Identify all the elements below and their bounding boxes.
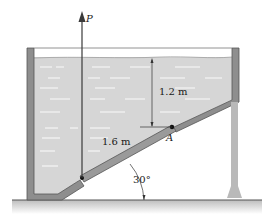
depth-label: 1.2 m bbox=[159, 86, 188, 97]
support-post bbox=[227, 102, 242, 198]
gate-length-label: 1.6 m bbox=[102, 136, 131, 147]
hinge-label: A bbox=[165, 132, 173, 143]
ground bbox=[12, 200, 262, 214]
tank-gate-diagram: P 1.2 m 1.6 m A 30° bbox=[0, 0, 277, 218]
angle-arrowhead bbox=[143, 195, 146, 200]
angle-label: 30° bbox=[133, 174, 151, 185]
force-label: P bbox=[85, 13, 93, 24]
